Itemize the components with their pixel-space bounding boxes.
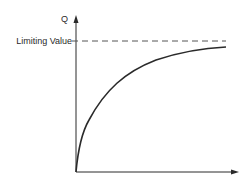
diagram: Q Limiting Value [0,0,244,181]
y-axis-arrow-icon [74,15,79,23]
y-axis-label: Q [61,14,68,24]
chart-canvas [0,0,244,181]
saturation-curve [76,47,226,172]
limiting-value-label: Limiting Value [16,36,72,46]
x-axis-arrow-icon [231,170,239,175]
